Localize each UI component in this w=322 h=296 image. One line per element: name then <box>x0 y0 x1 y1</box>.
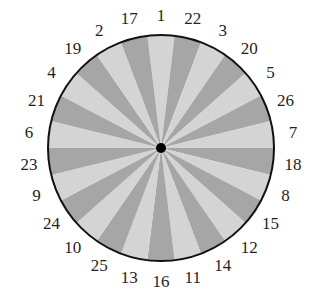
sector-label: 25 <box>91 256 108 275</box>
sector-label: 19 <box>64 39 81 58</box>
sector-label: 20 <box>241 39 258 58</box>
sector-label: 14 <box>214 256 232 275</box>
sector-label: 4 <box>47 63 56 82</box>
sector-label: 23 <box>21 155 38 174</box>
sector-label: 10 <box>64 238 81 257</box>
sector-label: 18 <box>285 155 302 174</box>
sector-label: 9 <box>32 186 41 205</box>
sector-label: 17 <box>121 9 139 28</box>
sector-label: 26 <box>277 91 294 110</box>
sector-label: 2 <box>95 21 104 40</box>
sector-label: 11 <box>185 268 201 287</box>
sector-label: 15 <box>262 214 279 233</box>
center-dot-icon <box>156 143 166 153</box>
spinner-wheel-diagram: 1223205267188151214111613251024923621419… <box>0 0 322 296</box>
sector-label: 22 <box>184 9 201 28</box>
sector-label: 5 <box>266 63 275 82</box>
sector-label: 8 <box>281 186 290 205</box>
sector-label: 16 <box>153 272 170 291</box>
sector-label: 21 <box>28 91 45 110</box>
sector-label: 7 <box>289 123 298 142</box>
sector-label: 12 <box>241 238 258 257</box>
sector-label: 6 <box>25 123 34 142</box>
sector-label: 1 <box>157 6 166 25</box>
sector-label: 3 <box>219 21 228 40</box>
sector-label: 13 <box>121 268 138 287</box>
sector-label: 24 <box>43 214 61 233</box>
